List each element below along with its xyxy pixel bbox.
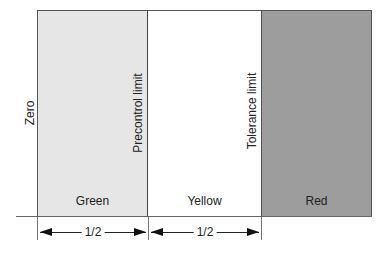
yellow-zone-label: Yellow (148, 194, 261, 208)
tolerance-limit-label: Tolerance limit (245, 69, 259, 153)
zero-label: Zero (23, 95, 37, 131)
arrow-left-icon (40, 228, 52, 236)
tick-zero (37, 217, 38, 240)
dimension-green: 1/2 (40, 226, 146, 238)
dimension-label: 1/2 (194, 225, 217, 239)
baseline (16, 216, 372, 217)
arrow-right-icon (247, 228, 259, 236)
dimension-yellow: 1/2 (151, 226, 259, 238)
precontrol-limit-label: Precontrol limit (131, 69, 145, 157)
arrow-right-icon (134, 228, 146, 236)
green-zone-label: Green (38, 194, 147, 208)
tick-precontrol (148, 217, 149, 240)
tick-tolerance (261, 217, 262, 240)
dimension-label: 1/2 (82, 225, 105, 239)
red-zone: Red (261, 10, 372, 216)
red-zone-label: Red (262, 194, 371, 208)
arrow-left-icon (151, 228, 163, 236)
